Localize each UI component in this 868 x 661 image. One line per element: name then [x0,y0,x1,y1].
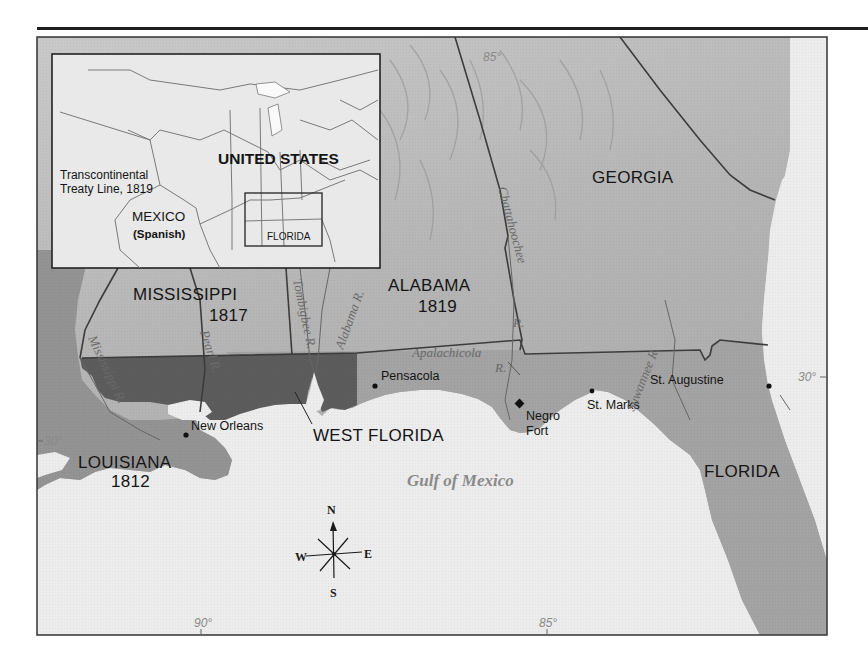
label-alabama-year: 1819 [418,297,457,316]
historical-map: UNITED STATES Transcontinental Treaty Li… [0,0,868,661]
graticule-90-bottom: 90° [194,616,212,630]
compass-w: W [295,550,307,564]
label-st-augustine: St. Augustine [650,373,724,387]
inset-mexico-sublabel: (Spanish) [133,228,186,240]
label-mississippi: MISSISSIPPI [133,285,237,304]
graticule-30-right: 30° [798,370,816,384]
label-gulf-of-mexico: Gulf of Mexico [407,471,514,490]
label-georgia: GEORGIA [592,168,674,187]
compass-s: S [330,586,337,600]
label-west-florida: WEST FLORIDA [313,426,444,445]
graticule-30-left: 30° [44,434,62,448]
label-louisiana: LOUISIANA [78,453,172,472]
graticule-85-top: 85° [483,50,501,64]
label-louisiana-year: 1812 [111,472,150,491]
label-florida: FLORIDA [704,462,780,481]
city-dot-pensacola [372,383,377,388]
inset-florida-label: FLORIDA [267,231,311,242]
inset-mexico-label: MEXICO [132,209,185,224]
label-negro-fort-2: Fort [526,424,549,438]
graticule-85-bottom: 85° [539,616,557,630]
label-chattahoochee-r: R. [512,315,524,330]
compass-n: N [327,503,336,517]
city-dot-st-marks [590,389,595,394]
treaty-line-label-1: Transcontinental [60,168,148,182]
treaty-line-label-2: Treaty Line, 1819 [60,182,153,196]
label-pensacola: Pensacola [381,369,439,383]
label-new-orleans: New Orleans [191,419,263,433]
city-dot-new-orleans [183,432,188,437]
label-apalachicola-river: Apalachicola [411,345,482,360]
label-negro-fort-1: Negro [526,409,560,423]
inset-map: UNITED STATES Transcontinental Treaty Li… [52,54,380,268]
label-alabama: ALABAMA [388,276,471,295]
city-dot-st-augustine [766,383,771,388]
label-apalachicola-r: R. [494,360,506,375]
inset-title: UNITED STATES [218,150,339,167]
label-mississippi-year: 1817 [209,306,248,325]
compass-e: E [364,547,372,561]
